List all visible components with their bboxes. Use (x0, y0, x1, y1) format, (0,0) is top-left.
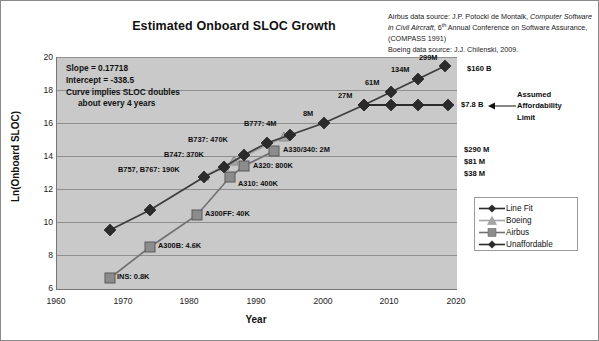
x-tick-2010: 2010 (369, 296, 409, 306)
point-label-b737: B737: 470K (188, 135, 228, 144)
affordability-limit-note: Assumed Affordability Limit (517, 89, 562, 123)
chart-title: Estimated Onboard SLOC Growth (89, 19, 379, 33)
y-tick-14: 14 (31, 151, 53, 161)
cost-label-38m: $38 M (464, 169, 485, 178)
cost-label-81m: $81 M (464, 157, 485, 166)
source-note: Airbus data source: J.P. Potocki de Mont… (388, 12, 596, 55)
x-tick-2020: 2020 (436, 296, 476, 306)
fit-intercept: Intercept = -338.5 (66, 75, 180, 87)
legend-marker-square-airbus (479, 227, 505, 238)
y-axis-ticks: 20 18 16 14 12 10 8 6 (23, 1, 53, 341)
legend-item-airbus[interactable]: Airbus (475, 226, 577, 238)
x-tick-2000: 2000 (303, 296, 343, 306)
point-label-b757-b767: B757, B767: 190K (118, 165, 180, 174)
legend-marker-triangle-boeing (479, 215, 505, 226)
cost-label-7-8b: $7.8 B (461, 100, 483, 109)
y-tick-20: 20 (31, 52, 53, 62)
legend-marker-diamond-unaffordable (479, 239, 505, 250)
x-axis-title: Year (136, 314, 376, 325)
y-tick-12: 12 (31, 184, 53, 194)
legend-item-line-fit[interactable]: Line Fit (475, 202, 577, 214)
legend-label-boeing: Boeing (506, 216, 532, 225)
y-tick-10: 10 (31, 217, 53, 227)
point-label-27m: 27M (338, 91, 352, 100)
point-label-61m: 61M (365, 78, 379, 87)
source-boeing: Boeing data source: J.J. Chilenski, 2009… (388, 45, 518, 54)
fit-slope: Slope = 0.17718 (66, 63, 180, 75)
point-label-299m: 299M (419, 53, 438, 62)
x-tick-1970: 1970 (103, 296, 143, 306)
fit-info-box: Slope = 0.17718 Intercept = -338.5 Curve… (66, 63, 180, 110)
y-axis-title: Ln(Onboard SLOC) (10, 67, 21, 247)
plot-area: Slope = 0.17718 Intercept = -338.5 Curve… (56, 57, 457, 290)
point-label-8m: 8M (303, 109, 313, 118)
affordability-arrow-icon (488, 100, 516, 112)
point-label-a320: A320: 800K (253, 161, 293, 170)
chart-legend: Line Fit Boeing Airbus Unaffordable (474, 197, 578, 251)
point-label-a300ff: A300FF: 40K (205, 209, 250, 218)
y-tick-18: 18 (31, 85, 53, 95)
affordability-line-3: Limit (517, 112, 562, 123)
x-tick-1990: 1990 (236, 296, 276, 306)
fit-doubling: Curve implies SLOC doubles (66, 87, 180, 99)
fit-doubling-cont: about every 4 years (66, 98, 180, 110)
point-label-ins: INS: 0.8K (117, 272, 149, 281)
point-label-a300b: A300B: 4.6K (158, 241, 201, 250)
legend-label-line-fit: Line Fit (506, 204, 533, 213)
cost-label-160b: $160 B (467, 64, 492, 73)
cost-label-290m: $290 M (464, 145, 489, 154)
point-label-b777: B777: 4M (244, 119, 276, 128)
point-label-134m: 134M (391, 65, 410, 74)
source-airbus-mid: , 6 (434, 24, 442, 33)
x-tick-1980: 1980 (169, 296, 209, 306)
source-airbus-prefix: Airbus data source: J.P. Potocki de Mont… (388, 12, 530, 21)
chart-figure: Estimated Onboard SLOC Growth Airbus dat… (0, 0, 599, 341)
point-label-a330-340: A330/340: 2M (283, 145, 330, 154)
legend-item-boeing[interactable]: Boeing (475, 214, 577, 226)
affordability-line-2: Affordability (517, 100, 562, 111)
y-tick-6: 6 (31, 283, 53, 293)
legend-label-airbus: Airbus (506, 228, 529, 237)
legend-item-unaffordable[interactable]: Unaffordable (475, 238, 577, 250)
point-label-a310: A310: 400K (238, 179, 278, 188)
legend-marker-diamond-line-fit (479, 203, 505, 214)
affordability-line-1: Assumed (517, 89, 562, 100)
y-tick-16: 16 (31, 118, 53, 128)
y-tick-8: 8 (31, 250, 53, 260)
x-tick-1960: 1960 (36, 296, 76, 306)
legend-label-unaffordable: Unaffordable (506, 240, 553, 249)
point-label-b747: B747: 370K (164, 150, 204, 159)
